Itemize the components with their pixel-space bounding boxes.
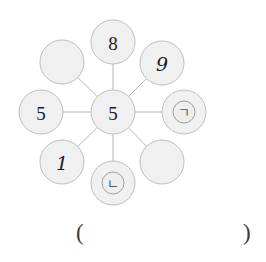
node-nw[interactable] bbox=[40, 40, 84, 84]
answer-row: ( ) bbox=[0, 218, 266, 254]
node-w[interactable]: 5 bbox=[19, 90, 63, 134]
node-n[interactable]: 8 bbox=[91, 20, 135, 64]
node-s[interactable]: ㄴ bbox=[91, 161, 135, 205]
node-se[interactable] bbox=[140, 140, 184, 184]
worksheet-page: 8 9 ㄱ ㄴ 1 5 bbox=[0, 0, 266, 262]
node-ne-label: 9 bbox=[156, 53, 168, 75]
node-center-label: 5 bbox=[108, 103, 118, 124]
node-e-label: ㄱ bbox=[178, 105, 190, 120]
node-n-label: 8 bbox=[108, 33, 118, 54]
answer-blank[interactable] bbox=[90, 222, 240, 246]
node-sw-label: 1 bbox=[56, 152, 68, 174]
node-se-circle bbox=[140, 140, 184, 184]
node-e[interactable]: ㄱ bbox=[162, 90, 206, 134]
answer-open-paren: ( bbox=[76, 218, 84, 248]
node-center[interactable]: 5 bbox=[91, 90, 135, 134]
node-sw[interactable]: 1 bbox=[40, 140, 84, 184]
answer-close-paren: ) bbox=[243, 218, 251, 248]
node-ne[interactable]: 9 bbox=[140, 41, 184, 85]
node-nw-circle bbox=[40, 40, 84, 84]
node-s-label: ㄴ bbox=[107, 176, 119, 191]
node-w-label: 5 bbox=[36, 103, 46, 124]
